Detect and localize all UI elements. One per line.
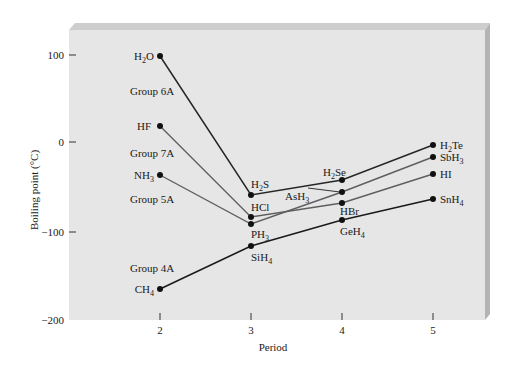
- panel-side-edge: [485, 23, 490, 320]
- y-axis: 100 0 −100 −200 Boiling point (°C): [28, 49, 76, 326]
- panel-top-edge: [69, 23, 490, 30]
- y-axis-title: Boiling point (°C): [28, 150, 41, 231]
- y-tick-label: −200: [41, 314, 64, 326]
- group-label-5a: Group 5A: [130, 193, 174, 205]
- x-tick-label: 2: [157, 324, 163, 336]
- label-hcl: HCl: [251, 201, 269, 213]
- x-tick-label: 3: [248, 324, 254, 336]
- y-tick-label: 0: [59, 136, 65, 148]
- plot-panel: [69, 30, 485, 320]
- label-hi: HI: [440, 168, 452, 180]
- group-label-6a: Group 6A: [130, 85, 174, 97]
- group-label-7a: Group 7A: [130, 147, 174, 159]
- label-hf: HF: [137, 120, 151, 132]
- group-label-4a: Group 4A: [130, 262, 174, 274]
- y-tick-label: −100: [41, 226, 64, 238]
- y-tick-label: 100: [48, 49, 65, 61]
- boiling-point-chart: 100 0 −100 −200 Boiling point (°C) 2 3 4…: [0, 0, 508, 367]
- x-tick-label: 5: [430, 324, 436, 336]
- x-tick-label: 4: [339, 324, 345, 336]
- label-hbr: HBr: [340, 205, 359, 217]
- x-axis-title: Period: [259, 341, 288, 353]
